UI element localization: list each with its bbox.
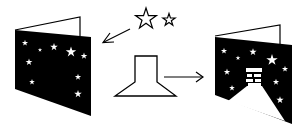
large-star-outline (136, 8, 157, 28)
chimney-cutout (246, 68, 262, 86)
arrow-to-result-card (164, 72, 203, 82)
arrow-to-star-card (103, 29, 130, 43)
diagram-canvas (0, 0, 308, 129)
star-card (15, 17, 91, 116)
diagram (0, 0, 308, 129)
result-card (215, 25, 292, 124)
lamp-stencil (115, 56, 176, 96)
small-star-outline (163, 14, 175, 26)
star-stencils (136, 8, 176, 28)
